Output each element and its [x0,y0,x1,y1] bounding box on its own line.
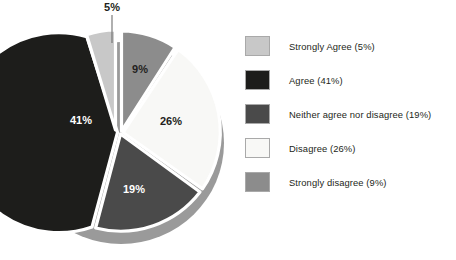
legend-item-neither-agree-nor-disagree[interactable]: Neither agree nor disagree (19%) [245,104,450,124]
pie-label-neither: 19% [123,183,145,195]
legend-item-strongly-agree[interactable]: Strongly Agree (5%) [245,36,450,56]
pie-label-disagree: 26% [160,115,182,127]
pie-chart-plot-area: 5% 9% 26% 19% 41% [0,0,240,260]
pie-label-strongly-disagree: 9% [132,63,148,75]
legend-swatch-icon [245,172,270,192]
legend-label: Strongly disagree (9%) [289,177,387,188]
legend-swatch-icon [245,70,270,90]
legend-label: Agree (41%) [289,75,343,86]
legend-label: Strongly Agree (5%) [289,41,375,52]
legend-item-strongly-disagree[interactable]: Strongly disagree (9%) [245,172,450,192]
legend-label: Disagree (26%) [289,143,356,154]
legend-item-agree[interactable]: Agree (41%) [245,70,450,90]
legend-swatch-icon [245,36,270,56]
legend-item-disagree[interactable]: Disagree (26%) [245,138,450,158]
pie-chart-svg: 5% 9% 26% 19% 41% [0,0,240,260]
legend-swatch-icon [245,138,270,158]
pie-label-agree: 41% [70,114,92,126]
legend-swatch-icon [245,104,270,124]
legend-label: Neither agree nor disagree (19%) [289,109,431,120]
pie-label-strongly-agree: 5% [104,1,120,13]
pie-slices [0,30,220,233]
pie-chart-figure: 5% 9% 26% 19% 41% Strongly Agree (5%) Ag… [0,0,456,260]
chart-legend: Strongly Agree (5%) Agree (41%) Neither … [245,36,450,192]
